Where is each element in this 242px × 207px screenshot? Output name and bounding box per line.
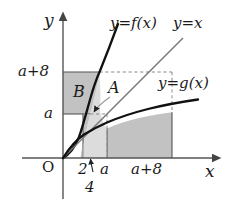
label-4-leader-arrow — [91, 159, 94, 172]
curve-label-g: y=g(x) — [158, 76, 209, 91]
curve-label-identity: y=x — [173, 16, 203, 31]
y-tick-label-a-plus-8: a+8 — [18, 64, 49, 79]
x-tick-label-a: a — [100, 162, 109, 177]
y-tick-label-a: a — [44, 106, 53, 121]
region-label-a: A — [108, 80, 120, 96]
x-tick-label-4: 4 — [85, 180, 95, 195]
y-axis-label: y — [44, 12, 54, 29]
origin-label: O — [42, 160, 54, 175]
x-tick-label-a-plus-8: a+8 — [131, 162, 162, 177]
x-axis-label: x — [205, 163, 215, 180]
x-tick-label-2: 2 — [78, 162, 88, 177]
math-figure: y x O a+8 a 2 4 a a+8 y=f(x) y=x y=g(x) … — [0, 0, 242, 207]
region-label-b: B — [73, 84, 85, 100]
curve-label-f: y=f(x) — [110, 16, 157, 31]
